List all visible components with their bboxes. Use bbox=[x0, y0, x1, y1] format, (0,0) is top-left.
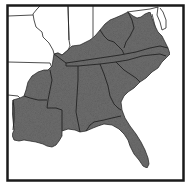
map-container: Southeastern United States bbox=[0, 0, 190, 194]
southeast-us-map bbox=[0, 0, 190, 194]
